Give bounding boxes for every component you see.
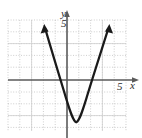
plot-area [0,0,142,138]
x-axis-tick-label-5: 5 [117,81,123,92]
x-axis-label: x [130,80,135,91]
y-axis-tick-label-5: 5 [61,18,67,29]
y-axis [64,10,70,138]
parabola-figure: y x 5 5 [0,0,142,138]
